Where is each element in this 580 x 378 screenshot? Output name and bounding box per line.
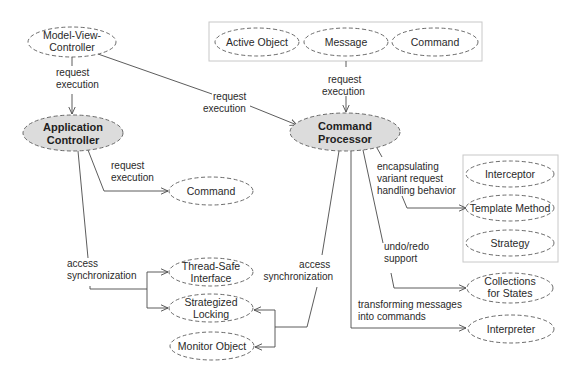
svg-text:Template Method: Template Method bbox=[470, 202, 551, 214]
node-active-object[interactable]: Active Object bbox=[215, 28, 299, 56]
svg-text:Controller: Controller bbox=[47, 134, 100, 146]
node-monitor-object[interactable]: Monitor Object bbox=[170, 332, 254, 360]
node-thread-safe-interface[interactable]: Thread-Safe Interface bbox=[169, 258, 253, 286]
svg-text:Processor: Processor bbox=[318, 133, 373, 145]
svg-text:Command: Command bbox=[411, 36, 460, 48]
svg-text:for States: for States bbox=[488, 287, 533, 299]
node-message[interactable]: Message bbox=[304, 28, 388, 56]
svg-text:Locking: Locking bbox=[193, 308, 229, 320]
label-app-command: request execution bbox=[111, 160, 154, 183]
svg-text:Interceptor: Interceptor bbox=[485, 168, 536, 180]
label-mvc-app: request execution bbox=[56, 67, 99, 90]
svg-text:Model-View-: Model-View- bbox=[43, 29, 102, 41]
svg-text:Command: Command bbox=[187, 185, 236, 197]
edge-cp-sync-line bbox=[322, 151, 339, 255]
node-command-top[interactable]: Command bbox=[392, 28, 478, 56]
svg-text:Controller: Controller bbox=[49, 41, 95, 53]
edge-cp-template bbox=[402, 196, 466, 208]
node-template-method[interactable]: Template Method bbox=[466, 195, 554, 221]
label-mvc-cp: request execution bbox=[203, 91, 249, 114]
label-app-sync: access synchronization bbox=[67, 258, 136, 281]
label-cp-undo: undo/redo support bbox=[384, 241, 432, 264]
svg-text:Strategized: Strategized bbox=[184, 296, 237, 308]
svg-text:Monitor Object: Monitor Object bbox=[178, 340, 246, 352]
svg-text:Active Object: Active Object bbox=[226, 36, 288, 48]
pattern-diagram: request execution request execution requ… bbox=[0, 0, 580, 378]
node-interceptor[interactable]: Interceptor bbox=[466, 161, 554, 187]
svg-text:Thread-Safe: Thread-Safe bbox=[182, 260, 241, 272]
node-model-view-controller[interactable]: Model-View- Controller bbox=[28, 27, 116, 57]
node-interpreter[interactable]: Interpreter bbox=[468, 315, 554, 343]
edge-cp-sync-h bbox=[275, 287, 317, 327]
svg-text:Collections: Collections bbox=[484, 275, 535, 287]
edge-mvc-cp-a bbox=[98, 54, 212, 94]
svg-text:Command: Command bbox=[318, 120, 372, 132]
node-collections-for-states[interactable]: Collections for States bbox=[467, 273, 553, 303]
edge-mvc-cp-b bbox=[250, 106, 297, 125]
node-strategy[interactable]: Strategy bbox=[466, 230, 554, 256]
label-group-cp: request execution bbox=[322, 74, 365, 97]
node-command-left[interactable]: Command bbox=[169, 177, 253, 205]
edge-app-sync-line bbox=[78, 151, 88, 258]
label-cp-transform: transforming messages into commands bbox=[358, 299, 465, 322]
edge-cp-collections bbox=[391, 273, 466, 288]
svg-text:Application: Application bbox=[43, 121, 103, 133]
label-cp-encapsulating: encapsulating variant request handling b… bbox=[377, 161, 457, 196]
svg-text:Interpreter: Interpreter bbox=[487, 323, 536, 335]
svg-text:Interface: Interface bbox=[191, 272, 232, 284]
svg-text:Strategy: Strategy bbox=[490, 237, 530, 249]
label-cp-sync: access synchronization bbox=[264, 259, 333, 282]
svg-text:Message: Message bbox=[325, 36, 368, 48]
edge-app-sync-h bbox=[90, 286, 147, 289]
edge-cp-encap-line bbox=[377, 148, 382, 157]
node-strategized-locking[interactable]: Strategized Locking bbox=[169, 294, 253, 322]
node-application-controller[interactable]: Application Controller bbox=[23, 115, 123, 151]
node-command-processor[interactable]: Command Processor bbox=[290, 113, 400, 151]
